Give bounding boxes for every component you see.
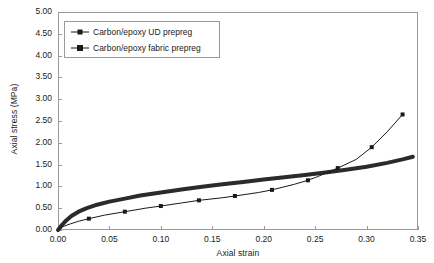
legend-marker-ud-icon xyxy=(71,27,89,37)
legend: Carbon/epoxy UD prepreg Carbon/epoxy fab… xyxy=(64,21,220,58)
legend-label-fabric: Carbon/epoxy fabric prepreg xyxy=(93,43,201,53)
legend-item-ud: Carbon/epoxy UD prepreg xyxy=(71,26,192,38)
data-series-layer xyxy=(58,112,413,230)
chart-container: Axial stress (MPa) Axial strain 0.000.50… xyxy=(0,0,434,263)
legend-item-fabric: Carbon/epoxy fabric prepreg xyxy=(71,42,201,54)
legend-label-ud: Carbon/epoxy UD prepreg xyxy=(93,27,192,37)
legend-marker-fabric-icon xyxy=(71,43,89,53)
